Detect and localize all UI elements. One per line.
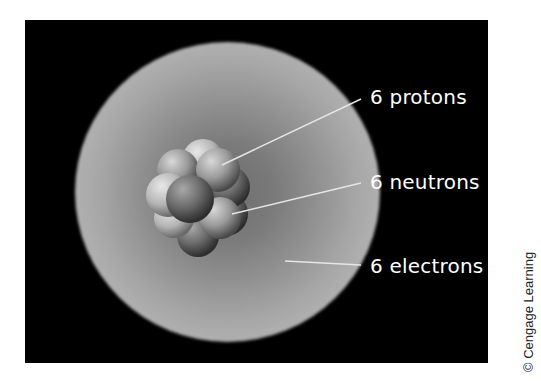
neutrons-leader-line bbox=[232, 183, 361, 214]
electrons-leader-line bbox=[285, 261, 361, 265]
electrons-label: 6 electrons bbox=[370, 254, 483, 278]
copyright-credit: © Cengage Learning bbox=[521, 252, 536, 372]
protons-leader-line bbox=[222, 99, 361, 165]
nucleon-sphere bbox=[166, 175, 214, 223]
protons-label: 6 protons bbox=[370, 85, 467, 109]
nucleus bbox=[146, 139, 250, 257]
neutrons-label: 6 neutrons bbox=[370, 170, 480, 194]
